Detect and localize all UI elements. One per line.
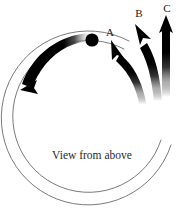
label-c: C <box>163 2 170 14</box>
exit-arrow-c-shaft <box>162 28 170 110</box>
caption-view-from-above: View from above <box>52 149 132 161</box>
ball <box>85 33 98 46</box>
label-b: B <box>135 7 142 19</box>
view-from-above-diagram: A B C View from above <box>0 0 189 224</box>
figure-root: A B C View from above <box>0 0 189 224</box>
label-a: A <box>106 26 114 38</box>
